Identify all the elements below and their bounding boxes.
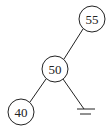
node-label: 50 bbox=[49, 62, 62, 77]
edge-50-40 bbox=[30, 79, 46, 102]
tree-node-40: 40 bbox=[8, 99, 34, 125]
node-label: 55 bbox=[86, 12, 99, 27]
edge-50-null bbox=[63, 79, 84, 109]
tree-node-50: 50 bbox=[42, 56, 68, 82]
tree-diagram: 55 50 40 bbox=[0, 0, 110, 131]
null-ground-icon bbox=[77, 109, 95, 114]
tree-node-55: 55 bbox=[79, 6, 105, 32]
edge-55-50 bbox=[64, 29, 83, 59]
node-label: 40 bbox=[15, 105, 28, 120]
